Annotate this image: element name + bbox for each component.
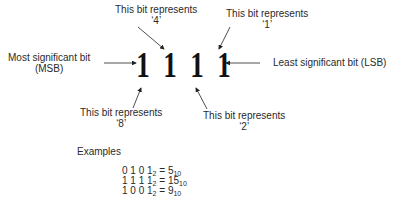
label-bit-4-line2: ‘4’ [115, 15, 197, 26]
label-bit-1-line2: ‘1’ [226, 19, 308, 30]
example-row: 1 0 0 12 = 910 [122, 186, 181, 199]
bit-3: 1 [190, 47, 204, 83]
label-msb: Most significant bit (MSB) [8, 52, 90, 74]
arrows [0, 0, 398, 201]
example-equals: = [157, 185, 168, 196]
label-bit-8-line2: ‘8’ [80, 118, 162, 129]
example-base-out: 10 [173, 190, 181, 197]
label-bit-8-line1: This bit represents [80, 107, 162, 118]
label-bit-8: This bit represents ‘8’ [80, 107, 162, 129]
bit-2: 1 [163, 47, 177, 83]
label-bit-1-line1: This bit represents [226, 8, 308, 19]
label-lsb: Least significant bit (LSB) [273, 57, 386, 68]
label-bit-2-line1: This bit represents [203, 110, 285, 121]
label-bit-4: This bit represents ‘4’ [115, 4, 197, 26]
label-bit-4-line1: This bit represents [115, 4, 197, 15]
label-bit-2-line2: ‘2’ [203, 121, 285, 132]
bit-lsb: 1 [217, 47, 231, 83]
bit-msb: 1 [136, 47, 150, 83]
label-bit-1: This bit represents ‘1’ [226, 8, 308, 30]
label-bit-2: This bit represents ‘2’ [203, 110, 285, 132]
examples-title: Examples [77, 146, 121, 157]
label-msb-line1: Most significant bit [8, 52, 90, 63]
label-msb-line2: (MSB) [8, 63, 90, 74]
example-binary: 1 0 0 1 [122, 185, 153, 196]
